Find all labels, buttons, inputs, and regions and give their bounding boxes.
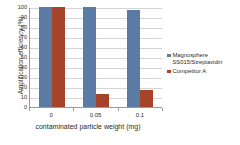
x-axis-tick-label: 0.05	[73, 112, 117, 118]
legend-swatch-icon	[167, 54, 171, 58]
y-axis-tick-label: 0	[12, 105, 27, 111]
y-axis-tick-label: 70	[12, 35, 27, 41]
y-axis-tick-label: 40	[12, 65, 27, 71]
x-axis-tickmark	[29, 108, 30, 111]
plot-area	[29, 8, 162, 108]
legend-item: Magnosphere SS015/Streptavidin	[167, 52, 240, 65]
y-axis-tick-label: 100	[12, 5, 27, 11]
legend-item-label: Magnosphere SS015/Streptavidin	[173, 52, 223, 65]
x-axis-tickmark	[118, 108, 119, 111]
y-axis-tick-labels: 1009080706050403020100	[12, 8, 27, 108]
bar-group	[30, 8, 74, 107]
y-axis-tick-label: 90	[12, 15, 27, 21]
bar	[83, 7, 96, 107]
x-axis-tick-label: 0	[29, 112, 73, 118]
x-axis-title: contaminated particle weight (mg)	[12, 122, 164, 131]
x-axis-tickmark	[73, 108, 74, 111]
bar-group	[118, 8, 162, 107]
x-axis-tickmark	[162, 108, 163, 111]
legend: Magnosphere SS015/StreptavidinCompetitor…	[167, 52, 240, 78]
y-axis-tick-label: 10	[12, 95, 27, 101]
x-axis-tick-label: 0.1	[118, 112, 162, 118]
y-axis-tick-label: 80	[12, 25, 27, 31]
bar	[96, 94, 109, 107]
y-axis-tick-label: 60	[12, 45, 27, 51]
bar	[140, 90, 153, 107]
y-axis-tick-label: 50	[12, 55, 27, 61]
x-axis-tick-labels: 00.050.1	[29, 112, 162, 118]
bar-groups	[30, 8, 162, 107]
bar	[52, 7, 65, 107]
bar-group	[74, 8, 118, 107]
bar	[39, 7, 52, 107]
legend-item: Competitor A	[167, 68, 240, 75]
legend-item-label: Competitor A	[173, 68, 207, 75]
bar	[127, 10, 140, 107]
legend-swatch-icon	[167, 70, 171, 74]
y-axis-tick-label: 30	[12, 75, 27, 81]
y-axis-tick-label: 20	[12, 85, 27, 91]
bar-chart: Amplification efficiency (%) 10090807060…	[0, 0, 240, 145]
